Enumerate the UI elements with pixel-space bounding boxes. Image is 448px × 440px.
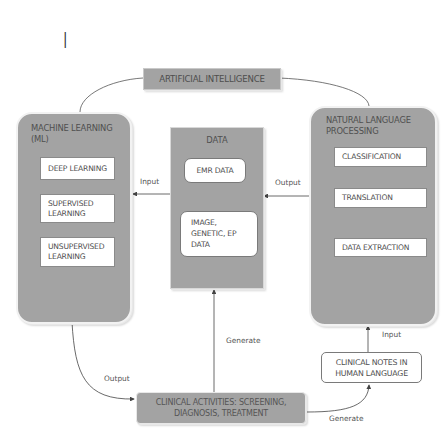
ml-item-supervised-learning: SUPERVISEDLEARNING <box>40 194 115 223</box>
machine-learning-node: MACHINE LEARNING (ML) DEEP LEARNING SUPE… <box>16 112 132 324</box>
clinical-activities-node: CLINICAL ACTIVITIES: SCREENING, DIAGNOSI… <box>136 392 306 424</box>
ml-title: MACHINE LEARNING (ML) <box>31 123 112 145</box>
nlp-item-translation: TRANSLATION <box>334 188 427 208</box>
data-node: DATA EMR DATA IMAGE, GENETIC, EP DATA <box>170 127 264 289</box>
edge-label-ml-to-clinical: Output <box>104 374 130 383</box>
clinical-notes-node: CLINICAL NOTES IN HUMAN LANGUAGE <box>321 352 422 383</box>
edge-label-notes-to-nlp: Input <box>382 330 401 339</box>
edge-label-data-to-ml: Input <box>140 177 159 186</box>
data-item-image-genetic-ep: IMAGE, GENETIC, EP DATA <box>180 211 258 257</box>
data-title: DATA <box>171 135 263 145</box>
figure-marker: I <box>62 30 69 52</box>
nlp-title: NATURAL LANGUAGE PROCESSING <box>326 115 411 137</box>
nlp-item-data-extraction: DATA EXTRACTION <box>334 238 427 257</box>
edge-label-clinical-to-data: Generate <box>226 336 261 345</box>
ml-item-deep-learning: DEEP LEARNING <box>40 157 115 180</box>
edge-label-nlp-to-data: Output <box>275 178 301 187</box>
nlp-item-classification: CLASSIFICATION <box>334 147 427 167</box>
data-item-emr: EMR DATA <box>184 158 246 183</box>
artificial-intelligence-node: ARTIFICIAL INTELLIGENCE <box>143 68 281 90</box>
edge-label-clinical-to-notes: Generate <box>329 414 364 423</box>
natural-language-processing-node: NATURAL LANGUAGE PROCESSING CLASSIFICATI… <box>309 106 437 326</box>
ml-item-unsupervised-learning: UNSUPERVISEDLEARNING <box>40 237 115 267</box>
